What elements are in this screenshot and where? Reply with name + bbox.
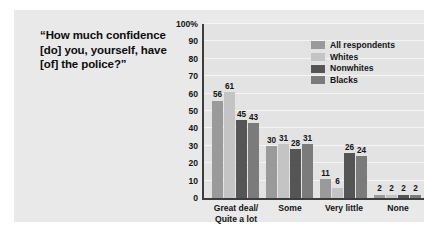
bar: 30 [266,146,277,198]
bar-value-label: 43 [249,114,258,122]
y-axis-tick-label: 10 [188,176,198,185]
legend-swatch-icon [311,41,325,49]
bar: 2 [410,195,421,198]
bar: 26 [344,153,355,198]
bar-value-label: 2 [389,185,394,193]
legend-swatch-icon [311,53,325,61]
y-axis-tick-label: 0 [193,194,198,203]
chart-legend: All respondentsWhitesNonwhitesBlacks [311,40,421,87]
bar: 31 [278,144,289,198]
y-axis-tick-label: 100% [176,20,198,29]
legend-item: Nonwhites [311,63,421,74]
legend-item: Whites [311,52,421,63]
legend-label: Whites [330,53,358,62]
bar-value-label: 61 [225,83,234,91]
bar: 2 [374,195,385,198]
chart-figure: “How much confidence [do] you, yourself,… [14,10,424,222]
bar-value-label: 56 [213,91,222,99]
legend-swatch-icon [311,65,325,73]
legend-label: Nonwhites [330,64,373,73]
category-label-line: None [358,203,438,214]
bar: 61 [224,92,235,198]
bar: 24 [356,156,367,198]
bar: 45 [236,120,247,198]
bar-value-label: 31 [303,135,312,143]
y-axis: 0102030405060708090100% [154,24,198,200]
bar-value-label: 2 [401,185,406,193]
y-axis-tick-label: 80 [188,55,198,64]
bar: 11 [320,179,331,198]
bar-value-label: 28 [291,140,300,148]
bar-value-label: 31 [279,135,288,143]
bar: 2 [398,195,409,198]
bar: 31 [302,144,313,198]
y-axis-tick-label: 90 [188,37,198,46]
bar: 2 [386,195,397,198]
category-axis: Great deal/Quite a lotSomeVery littleNon… [204,203,424,229]
bar-value-label: 6 [335,178,340,186]
bar-group: 30312831 [266,24,314,198]
legend-item: All respondents [311,40,421,51]
legend-label: Blacks [330,76,358,85]
y-axis-tick-label: 30 [188,142,198,151]
bar-value-label: 26 [345,144,354,152]
y-axis-tick-label: 20 [188,159,198,168]
question-text: “How much confidence [do] you, yourself,… [40,28,168,72]
category-label: None [358,203,438,214]
bar: 28 [290,149,301,198]
legend-swatch-icon [311,76,325,84]
bar: 43 [248,123,259,198]
y-axis-tick-label: 40 [188,124,198,133]
bar-value-label: 11 [321,170,330,178]
bar-value-label: 30 [267,137,276,145]
bar-value-label: 24 [357,147,366,155]
bar: 56 [212,101,223,198]
bar: 6 [332,188,343,198]
y-axis-tick-label: 60 [188,89,198,98]
legend-item: Blacks [311,75,421,86]
legend-label: All respondents [330,41,395,50]
bar-value-label: 2 [377,185,382,193]
y-axis-tick-label: 70 [188,72,198,81]
bar-value-label: 45 [237,111,246,119]
category-label-line: Quite a lot [196,214,276,225]
y-axis-tick-label: 50 [188,107,198,116]
bar-value-label: 2 [413,185,418,193]
bar-group: 56614543 [212,24,260,198]
